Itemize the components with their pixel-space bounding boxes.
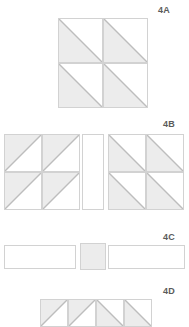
block-label-4d: 4D	[163, 286, 175, 296]
hst-unit-cell-r1c2	[103, 18, 148, 63]
block-label-4c: 4C	[163, 232, 175, 242]
center-square	[80, 243, 106, 270]
block-label-4b: 4B	[163, 119, 175, 129]
pinwheel-left-cell-r2c1	[4, 172, 42, 210]
hst-unit-cell-1	[40, 299, 68, 327]
pinwheel-left-cell-r1c2	[42, 134, 80, 172]
pinwheel-right-cell-r1c1	[108, 134, 146, 172]
hst-unit-cell-r1c1	[58, 18, 103, 63]
hst-unit-cell-4	[124, 299, 152, 327]
pinwheel-right-cell-r1c2	[146, 134, 184, 172]
hst-unit-cell-3	[96, 299, 124, 327]
hst-unit-cell-2	[68, 299, 96, 327]
sashing-strip	[82, 134, 104, 210]
pinwheel-right-cell-r2c2	[146, 172, 184, 210]
block-label-4a: 4A	[158, 5, 170, 15]
strip-right	[108, 245, 185, 269]
pinwheel-right-cell-r2c1	[108, 172, 146, 210]
strip-left	[4, 245, 76, 269]
pinwheel-left-cell-r2c2	[42, 172, 80, 210]
pinwheel-left-cell-r1c1	[4, 134, 42, 172]
hst-unit-cell-r2c1	[58, 63, 103, 108]
hst-unit-cell-r2c2	[103, 63, 148, 108]
